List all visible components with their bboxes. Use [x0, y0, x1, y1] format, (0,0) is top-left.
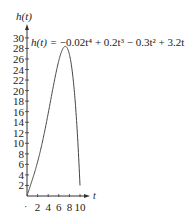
y-tick-label: 12	[13, 127, 24, 139]
x-axis-ticks: 246810	[35, 194, 86, 213]
y-tick-label: 8	[19, 148, 25, 160]
y-tick-label: 20	[13, 85, 25, 97]
x-tick-label: 4	[45, 201, 51, 213]
y-tick-label: 30	[13, 32, 25, 44]
y-tick-label: 2	[19, 179, 25, 191]
x-tick-label: 2	[35, 201, 41, 213]
x-axis-label: t	[93, 190, 96, 201]
x-tick-label: 6	[56, 201, 62, 213]
y-tick-label: 18	[13, 95, 25, 107]
equation-annotation: h(t) = −0.02t⁴ + 0.2t³ − 0.3t² + 3.2t	[31, 36, 184, 49]
y-axis-label: h(t)	[16, 10, 32, 23]
y-tick-label: 16	[13, 106, 25, 118]
x-tick-label: 8	[67, 201, 73, 213]
chart: 24681012141618202224262830 246810 h(t) t…	[0, 0, 189, 220]
y-tick-label: 24	[13, 64, 25, 76]
y-tick-label: 26	[13, 53, 25, 65]
y-axis-arrow-icon	[25, 24, 29, 30]
y-tick-label: 6	[19, 158, 25, 170]
y-tick-label: 4	[19, 169, 25, 181]
x-origin-mark: ·	[24, 201, 27, 212]
x-axis-arrow-icon	[84, 194, 90, 198]
h-t-curve	[27, 46, 80, 196]
y-tick-label: 22	[13, 74, 24, 86]
x-tick-label: 10	[75, 201, 87, 213]
y-tick-label: 28	[13, 42, 25, 54]
y-tick-label: 10	[13, 137, 25, 149]
y-tick-label: 14	[13, 116, 25, 128]
